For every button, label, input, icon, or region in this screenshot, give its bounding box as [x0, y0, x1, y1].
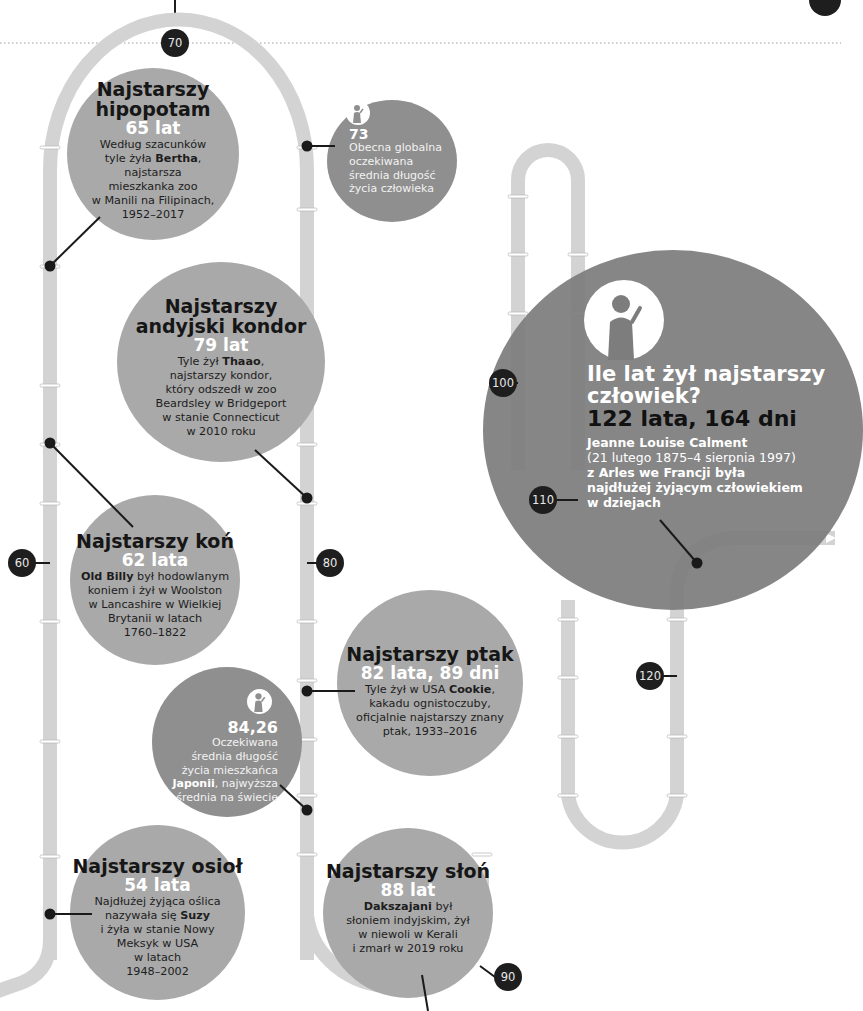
fact-age: 54 lata: [65, 877, 250, 895]
age-marker-70: 70: [161, 29, 189, 57]
fact-description: Obecna globalna oczekiwana średnia długo…: [349, 141, 459, 196]
person-icon: [247, 689, 272, 714]
fact-description: Tyle żył w USA Cookie, kakadu ognistoczu…: [337, 683, 523, 739]
age-marker-90: 90: [494, 963, 522, 991]
fact-title: Najstarszy słoń: [323, 862, 493, 882]
fact-age: 79 lat: [117, 337, 325, 355]
fact-horse-text: Najstarszy koń 62 lata Old Billy był hod…: [60, 532, 250, 640]
fact-value: 84,26: [160, 720, 278, 736]
fact-title: Najstarszy osioł: [65, 857, 250, 877]
fact-description: Old Billy był hodowlanym koniem i żył w …: [60, 570, 250, 640]
fact-bird-text: Najstarszy ptak 82 lata, 89 dni Tyle żył…: [337, 645, 523, 739]
fact-age: 65 lat: [67, 120, 239, 138]
pipe-segment-right-top: [518, 150, 578, 180]
fact-age: 62 lata: [60, 552, 250, 570]
fact-title: Najstarszy ptak: [337, 645, 523, 665]
age-marker-110: 110: [529, 486, 557, 514]
person-icon: [346, 101, 370, 125]
fact-hippo-text: Najstarszyhipopotam 65 lat Według szacun…: [67, 80, 239, 222]
fact-condor-text: Najstarszyandyjski kondor 79 lat Tyle ży…: [117, 297, 325, 439]
fact-description: Tyle żył Thaao, najstarszy kondor, który…: [117, 355, 325, 439]
age-marker-80: 80: [316, 549, 344, 577]
fact-donkey-text: Najstarszy osioł 54 lata Najdłużej żyjąc…: [65, 857, 250, 979]
age-marker-120: 120: [636, 662, 664, 690]
fact-description: Oczekiwana średnia długość życia mieszka…: [160, 736, 278, 805]
fact-japan-text: 84,26 Oczekiwana średnia długość życia m…: [160, 720, 278, 805]
fact-title: Najstarszyhipopotam: [67, 80, 239, 120]
fact-age: 122 lata, 164 dni: [587, 407, 837, 431]
fact-human-text: Ile lat żył najstarszyczłowiek? 122 lata…: [587, 363, 837, 510]
person-icon: [584, 280, 664, 360]
fact-global-life-text: 73 Obecna globalna oczekiwana średnia dł…: [349, 127, 459, 196]
fact-description: Jeanne Louise Calment (21 lutego 1875–4 …: [587, 435, 837, 510]
fact-age: 88 lat: [323, 882, 493, 900]
fact-title: Najstarszyandyjski kondor: [117, 297, 325, 337]
pipe-segment-right-u: [568, 600, 677, 843]
fact-description: Dakszajani był słoniem indyjskim, żył w …: [323, 900, 493, 956]
fact-description: Najdłużej żyjąca oślica nazywała się Suz…: [65, 895, 250, 979]
age-marker-100: 100: [489, 369, 517, 397]
fact-elephant-text: Najstarszy słoń 88 lat Dakszajani był sł…: [323, 862, 493, 956]
age-marker-60: 60: [8, 549, 36, 577]
fact-value: 73: [349, 127, 459, 141]
fact-description: Według szacunków tyle żyła Bertha, najst…: [67, 138, 239, 222]
fact-age: 82 lata, 89 dni: [337, 665, 523, 683]
question-title: Ile lat żył najstarszyczłowiek?: [587, 363, 837, 407]
fact-title: Najstarszy koń: [60, 532, 250, 552]
pipe-segment-exit-left: [0, 900, 50, 992]
